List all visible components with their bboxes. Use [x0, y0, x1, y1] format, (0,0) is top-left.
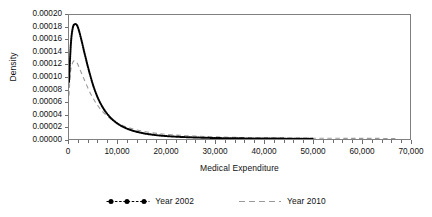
x-tick-mark-major	[411, 140, 412, 144]
y-tick-label: 0.00002	[32, 123, 62, 131]
x-tick-mark-minor	[78, 140, 79, 143]
legend-item-year-2002: Year 2002	[106, 196, 194, 207]
x-tick-label: 60,000	[349, 148, 374, 156]
x-tick-mark-minor	[97, 140, 98, 143]
x-tick-mark-minor	[382, 140, 383, 143]
x-tick-mark-major	[117, 140, 118, 144]
legend-swatch-year-2002	[106, 196, 150, 207]
x-tick-mark-major	[166, 140, 167, 144]
x-tick-mark-minor	[254, 140, 255, 143]
y-tick-label: 0.00014	[32, 48, 62, 56]
x-tick-mark-minor	[156, 140, 157, 143]
legend-item-year-2010: Year 2010	[238, 196, 326, 207]
legend-label-year-2002: Year 2002	[155, 196, 194, 206]
legend-swatch-year-2010	[238, 196, 282, 207]
chart-legend: Year 2002 Year 2010	[0, 191, 432, 211]
x-tick-mark-minor	[342, 140, 343, 143]
x-tick-mark-minor	[372, 140, 373, 143]
x-tick-mark-minor	[401, 140, 402, 143]
y-tick-label: 0.00016	[32, 35, 62, 43]
density-chart-figure: Density 0.000000.000020.000040.000060.00…	[0, 0, 432, 217]
x-axis-title: Medical Expenditure	[68, 163, 411, 173]
y-tick-label: 0.00010	[32, 73, 62, 81]
x-tick-mark-major	[264, 140, 265, 144]
x-tick-label: 70,000	[398, 148, 423, 156]
y-tick-label: 0.00006	[32, 98, 62, 106]
series-canvas	[69, 15, 410, 139]
x-tick-mark-minor	[274, 140, 275, 143]
series-line-year-2010	[69, 61, 395, 139]
x-tick-mark-minor	[88, 140, 89, 143]
legend-label-year-2010: Year 2010	[287, 196, 326, 206]
x-tick-mark-minor	[235, 140, 236, 143]
x-tick-mark-minor	[186, 140, 187, 143]
x-tick-mark-minor	[137, 140, 138, 143]
x-tick-mark-minor	[176, 140, 177, 143]
x-tick-mark-minor	[244, 140, 245, 143]
x-tick-label: 50,000	[300, 148, 325, 156]
x-tick-mark-minor	[195, 140, 196, 143]
x-tick-label: 20,000	[153, 148, 178, 156]
y-tick-label: 0.00008	[32, 86, 62, 94]
x-axis-tick-labels: 010,00020,00030,00040,00050,00060,00070,…	[68, 148, 411, 160]
x-tick-mark-minor	[323, 140, 324, 143]
x-axis-tick-marks	[68, 140, 411, 146]
x-tick-mark-minor	[333, 140, 334, 143]
y-tick-label: 0.00012	[32, 60, 62, 68]
x-tick-mark-major	[215, 140, 216, 144]
x-tick-mark-major	[313, 140, 314, 144]
x-tick-label: 40,000	[251, 148, 276, 156]
x-tick-mark-major	[362, 140, 363, 144]
y-tick-label: 0.00020	[32, 10, 62, 18]
x-tick-mark-minor	[205, 140, 206, 143]
x-tick-mark-minor	[293, 140, 294, 143]
y-tick-label: 0.00018	[32, 23, 62, 31]
x-tick-mark-minor	[127, 140, 128, 143]
y-axis-tick-labels: 0.000000.000020.000040.000060.000080.000…	[6, 8, 62, 148]
x-tick-label: 0	[66, 148, 71, 156]
x-tick-mark-minor	[352, 140, 353, 143]
x-tick-label: 30,000	[202, 148, 227, 156]
y-tick-label: 0.00004	[32, 111, 62, 119]
x-tick-mark-major	[68, 140, 69, 144]
x-tick-mark-minor	[107, 140, 108, 143]
x-tick-mark-minor	[303, 140, 304, 143]
x-tick-label: 10,000	[104, 148, 129, 156]
x-tick-mark-minor	[225, 140, 226, 143]
x-tick-mark-minor	[391, 140, 392, 143]
series-line-year-2002	[69, 24, 313, 139]
plot-area	[68, 14, 411, 140]
y-tick-label: 0.00000	[32, 136, 62, 144]
x-tick-mark-minor	[284, 140, 285, 143]
x-tick-mark-minor	[146, 140, 147, 143]
